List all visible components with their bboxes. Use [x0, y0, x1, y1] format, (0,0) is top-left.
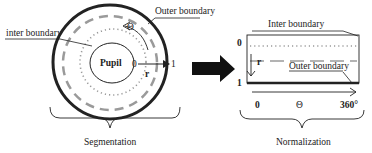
inter-boundary-leader — [5, 39, 92, 46]
r-label: r — [145, 69, 150, 79]
r-end-label: 1 — [171, 59, 176, 69]
theta-label-right: Θ — [296, 100, 303, 110]
segmentation-caption: Segmentation — [84, 137, 136, 147]
outer-boundary-label: Outer boundary — [155, 6, 215, 16]
normalization-caption: Normalization — [276, 137, 331, 147]
theta-end-label: 360° — [340, 100, 358, 110]
normalized-rect — [247, 35, 359, 83]
theta-start-label: 0 — [255, 100, 260, 110]
r-bottom-label: 1 — [237, 78, 242, 88]
pupil-label: Pupil — [100, 58, 122, 68]
segmentation-panel: Outer boundary inter boundary Pupil Θ 0 … — [5, 5, 215, 147]
inter-boundary-label: inter boundary — [6, 28, 62, 38]
inter-boundary-label-right: Inter boundary — [268, 19, 324, 29]
outer-boundary-label-right: Outer boundary — [289, 61, 349, 71]
iris-normalization-diagram: Outer boundary inter boundary Pupil Θ 0 … — [0, 0, 372, 153]
r-top-label: 0 — [237, 38, 242, 48]
normalization-brace — [240, 110, 364, 128]
transform-arrow-icon — [192, 55, 235, 82]
theta-label: Θ — [127, 22, 134, 32]
r-start-label: 0 — [132, 59, 137, 69]
normalization-panel: Inter boundary Outer boundary 0 1 r 0 Θ … — [237, 19, 364, 147]
